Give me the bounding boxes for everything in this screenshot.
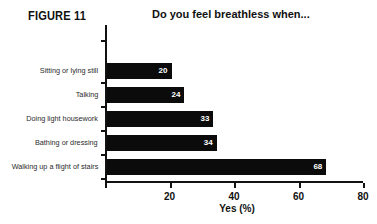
x-axis-tick xyxy=(299,183,301,188)
x-axis-tick-label: 80 xyxy=(357,191,368,202)
figure-number-label: FIGURE 11 xyxy=(28,9,86,23)
x-axis-tick-label: 60 xyxy=(293,191,304,202)
bar-value-label: 24 xyxy=(171,91,180,99)
y-axis-tick xyxy=(101,106,106,108)
bar-value-label: 20 xyxy=(159,67,168,75)
bar-value-label: 34 xyxy=(204,139,213,147)
x-axis-title: Yes (%) xyxy=(219,203,255,214)
y-axis-tick xyxy=(101,154,106,156)
x-axis-tick xyxy=(170,183,172,188)
x-axis-tick xyxy=(105,183,107,188)
bar-value-label: 33 xyxy=(201,115,210,123)
x-axis-tick-label: 20 xyxy=(164,191,175,202)
category-label: Bathing or dressing xyxy=(35,138,98,147)
bar: 24 xyxy=(107,87,184,103)
x-axis-tick-label: 40 xyxy=(228,191,239,202)
category-label: Walking up a flight of stairs xyxy=(11,162,98,171)
y-axis-tick xyxy=(101,130,106,132)
category-label: Sitting or lying still xyxy=(40,66,98,75)
category-label: Talking xyxy=(75,90,98,99)
y-axis-tick xyxy=(101,178,106,180)
bar: 20 xyxy=(107,63,172,79)
bar-value-label: 68 xyxy=(313,163,322,171)
chart-title: Do you feel breathless when... xyxy=(152,8,310,20)
bar: 33 xyxy=(107,111,213,127)
x-axis-tick xyxy=(363,183,365,188)
figure-container: FIGURE 11 Do you feel breathless when...… xyxy=(0,0,377,224)
category-label: Doing light housework xyxy=(26,114,98,123)
bar: 68 xyxy=(107,159,326,175)
y-axis-tick xyxy=(101,82,106,84)
y-axis-tick xyxy=(101,40,106,42)
bar: 34 xyxy=(107,135,217,151)
x-axis-tick xyxy=(234,183,236,188)
plot-area: 2024333468 20406080 xyxy=(105,25,363,183)
